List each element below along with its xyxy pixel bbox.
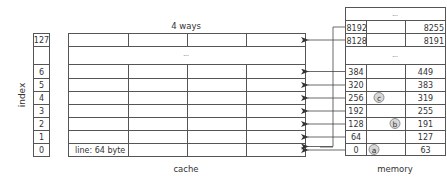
- index-cell: 2: [39, 120, 44, 129]
- index-cell: 3: [39, 107, 44, 116]
- index-axis-label: index: [17, 82, 27, 107]
- index-cell: 4: [39, 94, 44, 103]
- memory-end-address: 8191: [424, 37, 444, 46]
- memory-end-address: 63: [420, 146, 430, 155]
- memory-start-address: 256: [348, 94, 363, 103]
- memory-start-address: 192: [348, 107, 363, 116]
- memory-end-address: 191: [418, 120, 433, 129]
- marker-b: b: [390, 119, 400, 129]
- memory-end-address: 127: [418, 133, 433, 142]
- cache-memory-diagram: index 127 6 5 4 3 2 1 0 4 ways: [0, 0, 447, 180]
- mapping-arrows: [308, 27, 345, 150]
- memory-start-address: 8192: [347, 24, 367, 33]
- memory-start-address: 0: [353, 146, 358, 155]
- svg-text:c: c: [377, 94, 381, 103]
- memory-start-address: 8128: [347, 37, 367, 46]
- memory-caption: memory: [377, 164, 413, 174]
- memory-end-address: 8255: [424, 24, 444, 33]
- memory-end-address: 383: [418, 81, 433, 90]
- cache-caption: cache: [173, 164, 198, 174]
- index-cell: 0: [39, 146, 44, 155]
- memory-end-address: 255: [418, 107, 433, 116]
- memory-start-address: 128: [348, 120, 363, 129]
- memory-start-address: 64: [351, 133, 361, 142]
- memory-start-address: 384: [348, 68, 363, 77]
- memory-end-address: 319: [418, 94, 433, 103]
- cache-line-size-label: line: 64 byte: [75, 146, 125, 155]
- index-cell: 6: [39, 68, 44, 77]
- marker-a: a: [369, 145, 379, 155]
- index-cell: 1: [39, 133, 44, 142]
- svg-text:b: b: [393, 120, 398, 129]
- memory-mid-ellipsis: ...: [392, 51, 398, 58]
- cache-ways-label: 4 ways: [171, 21, 201, 31]
- index-cell: 127: [34, 36, 49, 45]
- memory-end-address: 449: [418, 68, 433, 77]
- index-cell: 5: [39, 81, 44, 90]
- memory-start-address: 320: [348, 81, 363, 90]
- marker-c: c: [374, 93, 384, 103]
- memory-top-ellipsis: ...: [392, 10, 398, 17]
- cache-ellipsis: ...: [183, 50, 189, 57]
- svg-text:a: a: [372, 146, 377, 155]
